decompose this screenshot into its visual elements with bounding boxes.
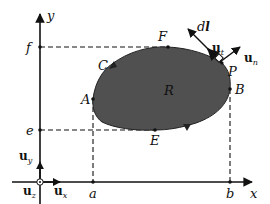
region-r (93, 47, 230, 130)
point-p (220, 61, 223, 64)
ux-label: ux (54, 184, 68, 200)
point-f-label: F (157, 29, 168, 44)
f-label: f (25, 40, 33, 55)
dl-label: dl (197, 19, 210, 34)
point-b-label: B (234, 82, 245, 97)
y-axis-label: y (46, 8, 55, 23)
boundary-arrow-e (183, 124, 191, 131)
a-label: a (89, 186, 97, 201)
b-label: b (226, 186, 234, 201)
uz-dot-center (39, 181, 41, 183)
uz-label: uz (23, 184, 37, 200)
e-label: e (26, 123, 34, 138)
point-a-label: A (80, 92, 90, 107)
point-e-label: E (149, 133, 160, 148)
green-theorem-diagram: y x f e a b A B C E F P R dl ut un uy uz… (0, 0, 270, 204)
ut-label: ut (212, 41, 225, 57)
point-p-label: P (227, 64, 237, 79)
region-label: R (163, 83, 174, 98)
uy-label: uy (19, 149, 33, 165)
point-c-label: C (98, 58, 108, 73)
x-axis-label: x (250, 186, 258, 201)
un-label: un (244, 51, 258, 67)
